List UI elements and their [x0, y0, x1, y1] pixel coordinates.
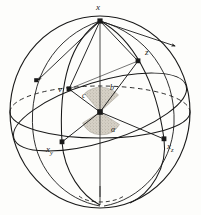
- sphere-diagram-svg: [0, 0, 201, 215]
- meridian-right-outer: [100, 21, 174, 206]
- label-point-xy-sub: y: [50, 149, 53, 156]
- node-vector-left-tail: [34, 78, 38, 82]
- node-pole-top: [97, 18, 102, 23]
- chord-pole-to-v: [69, 21, 100, 89]
- node-point-z: [136, 58, 141, 63]
- label-point-z: z: [145, 48, 149, 57]
- label-point-xz: xz: [167, 142, 174, 153]
- meridian-xz: [100, 21, 165, 203]
- meridian-xy: [61, 21, 100, 205]
- label-point-xy: xy: [46, 145, 53, 156]
- label-pole-top: x: [96, 3, 100, 12]
- vector-arrow-left: [38, 21, 100, 80]
- label-angle-alpha: α: [111, 126, 115, 134]
- node-point-xy: [60, 139, 65, 144]
- direction-vectors: [38, 21, 175, 80]
- label-point-v: v: [58, 85, 62, 94]
- meridian-left-outer: [32, 21, 100, 206]
- label-angle-c: c: [82, 92, 86, 100]
- node-point-xz: [162, 136, 167, 141]
- label-point-xz-sub: z: [171, 146, 174, 153]
- node-center: [97, 109, 103, 115]
- bottom-pole-dashed-arc: [79, 196, 124, 202]
- node-point-v: [67, 86, 72, 91]
- label-angle-b: b: [110, 84, 114, 92]
- celestial-sphere-figure: x z v xy xz c b α: [0, 0, 201, 215]
